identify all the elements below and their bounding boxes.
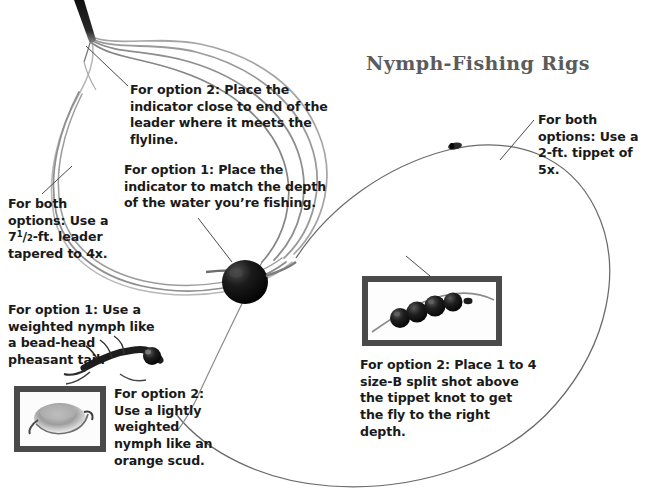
fraction-whole: 7 xyxy=(8,229,17,244)
fraction-numerator: 1 xyxy=(17,229,23,239)
callout-option1-indicator: For option 1: Place the indicator to mat… xyxy=(124,162,329,212)
callout-split-shot: For option 2: Place 1 to 4 size-B split … xyxy=(360,357,538,441)
photo-split-shot xyxy=(362,276,502,346)
leader-length-fraction: 71/2 xyxy=(8,229,33,246)
pointer-tippet-both xyxy=(500,120,534,160)
nymph-fishing-rigs-diagram: Nymph-Fishing Rigs For option 2: Place t… xyxy=(0,0,661,498)
callout-option2-indicator: For option 2: Place the indicator close … xyxy=(130,82,330,149)
callout-tippet-both-options: For both options: Use a 2-ft. tippet of … xyxy=(538,112,653,179)
pointer-split-shot xyxy=(406,256,430,276)
page-title: Nymph-Fishing Rigs xyxy=(366,52,590,74)
pointer-leader-both xyxy=(42,166,72,194)
strike-indicator xyxy=(206,260,296,304)
pointer-option1-indicator xyxy=(198,218,232,262)
callout-leader-both-options: For both options: Use a 71/2-ft. leader … xyxy=(8,196,120,263)
callout-leader-line1: For both options: Use a xyxy=(8,196,108,228)
callout-option1-nymph: For option 1: Use a weighted nymph like … xyxy=(8,302,158,369)
pointer-option2-indicator xyxy=(86,46,128,86)
callout-option2-nymph: For option 2: Use a lightly weighted nym… xyxy=(114,386,220,470)
photo-orange-scud xyxy=(14,386,106,452)
